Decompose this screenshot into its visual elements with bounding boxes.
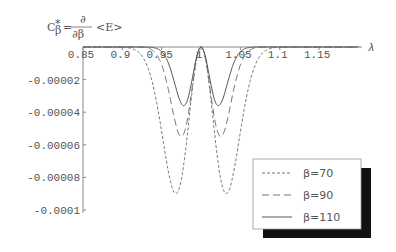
x-tick-label: 0.85: [68, 49, 94, 61]
y-tick-label: -0.00008: [27, 172, 80, 184]
title-eq: =: [63, 21, 72, 34]
y-tick-label: -0.00004: [27, 107, 80, 119]
title-lhs-sub: β: [55, 24, 61, 37]
chart-title: C * β = ∂ ∂β <E>: [47, 13, 122, 41]
x-tick-label: 0.9: [110, 49, 130, 61]
legend-label: β=70: [303, 167, 333, 180]
legend-label: β=90: [303, 189, 333, 202]
title-den: ∂β: [72, 28, 84, 41]
title-rhs: <E>: [96, 21, 122, 34]
y-tick-label: -0.00006: [27, 140, 80, 152]
legend: β=70 β=90 β=110: [253, 159, 371, 238]
chart: C * β = ∂ ∂β <E> λ 0.850.90.9511.051.11.…: [0, 0, 396, 252]
title-num: ∂: [80, 13, 86, 26]
legend-label: β=110: [303, 211, 340, 224]
x-tick-label: 1.15: [304, 49, 330, 61]
x-axis-label: λ: [368, 42, 375, 54]
x-tick-label: 1.1: [268, 49, 288, 61]
x-tick-label: 1.05: [225, 49, 251, 61]
y-tick-label: -0.0001: [34, 205, 81, 217]
y-ticks: -0.00002-0.00004-0.00006-0.00008-0.0001: [27, 75, 86, 217]
y-tick-label: -0.00002: [27, 75, 80, 87]
